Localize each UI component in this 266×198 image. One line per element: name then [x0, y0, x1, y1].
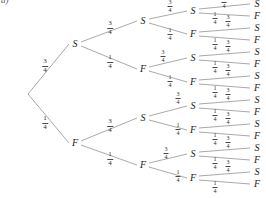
branch-probability-label: 34	[107, 118, 113, 134]
tree-leaf-node: S	[255, 47, 260, 57]
fraction-denominator: 4	[213, 45, 218, 51]
fraction-denominator: 4	[226, 22, 231, 28]
fraction-denominator: 4	[226, 119, 231, 125]
tree-edge	[199, 148, 250, 152]
tree-node: F	[72, 138, 78, 148]
branch-probability-label: 14	[107, 151, 113, 167]
tree-leaf-node: F	[254, 35, 260, 45]
fraction-numerator: 1	[107, 54, 113, 61]
tree-leaf-node: S	[255, 0, 260, 9]
fraction-numerator: 3	[164, 146, 169, 152]
tree-node: F	[190, 77, 196, 87]
tree-edge	[28, 94, 69, 143]
tree-edge	[199, 124, 250, 128]
tree-leaf-node: F	[254, 83, 260, 93]
tree-edge	[28, 44, 69, 94]
fraction-numerator: 1	[213, 37, 218, 43]
tree-edge	[199, 172, 250, 176]
tree-edge	[199, 156, 250, 160]
branch-probability-label: 34	[42, 58, 48, 74]
fraction-denominator: 4	[161, 57, 166, 63]
fraction-numerator: 3	[226, 14, 231, 20]
branch-probability-label: 14	[213, 108, 218, 122]
fraction-numerator: 1	[176, 122, 181, 128]
branch-probability-label: 14	[213, 60, 218, 74]
tree-edge	[199, 60, 250, 64]
tree-leaf-node: S	[255, 71, 260, 81]
tree-edge	[199, 36, 250, 40]
tree-node: S	[191, 149, 196, 159]
fraction-numerator: 3	[107, 118, 113, 125]
branch-probability-label: 34	[226, 63, 231, 77]
fraction-numerator: 1	[168, 27, 173, 33]
tree-node: S	[141, 16, 146, 26]
fraction-numerator: 1	[213, 108, 218, 114]
tree-edge	[149, 58, 187, 67]
fraction-numerator: 3	[168, 0, 173, 5]
fraction-numerator: 1	[176, 169, 181, 175]
fraction-denominator: 4	[107, 29, 113, 36]
fraction-denominator: 4	[226, 47, 231, 53]
tree-leaf-node: F	[254, 107, 260, 117]
tree-node: S	[141, 113, 146, 123]
fraction-numerator: 1	[42, 115, 48, 122]
fraction-denominator: 4	[226, 95, 231, 101]
fraction-denominator: 4	[222, 3, 227, 9]
fraction-denominator: 4	[164, 154, 169, 160]
tree-leaf-node: S	[255, 23, 260, 33]
branch-probability-label: 14	[42, 115, 48, 131]
tree-leaf-node: F	[254, 179, 260, 189]
fraction-numerator: 1	[213, 132, 218, 138]
tree-edge	[149, 106, 187, 116]
tree-leaf-node: S	[255, 95, 260, 105]
fraction-denominator: 4	[213, 68, 218, 74]
tree-edge	[149, 167, 187, 178]
tree-leaf-node: F	[254, 11, 260, 21]
branch-probability-label: 34	[226, 39, 231, 53]
fraction-numerator: 3	[226, 135, 231, 141]
tree-edge	[199, 28, 250, 32]
branch-probability-label: 34	[222, 0, 227, 9]
fraction-numerator: 3	[161, 49, 166, 55]
tree-edge	[199, 13, 250, 16]
fraction-denominator: 4	[213, 116, 218, 122]
tree-node: S	[191, 101, 196, 111]
fraction-denominator: 4	[168, 35, 173, 41]
branch-probability-label: 34	[226, 87, 231, 101]
fraction-denominator: 4	[213, 19, 218, 25]
fraction-numerator: 3	[226, 63, 231, 69]
tree-edge	[199, 84, 250, 88]
fraction-numerator: 3	[42, 58, 48, 65]
branch-probability-label: 34	[168, 0, 173, 13]
fraction-numerator: 3	[176, 91, 181, 97]
branch-probability-label: 14	[213, 85, 218, 99]
fraction-denominator: 4	[42, 124, 48, 131]
tree-edge	[199, 180, 250, 184]
branch-probability-label: 14	[176, 122, 181, 136]
tree-edge	[199, 100, 250, 104]
branch-probability-label: 34	[226, 135, 231, 149]
branch-probability-label: 14	[176, 169, 181, 183]
branch-probability-label: 34	[226, 111, 231, 125]
fraction-denominator: 4	[176, 130, 181, 136]
fraction-denominator: 4	[176, 177, 181, 183]
tree-node: F	[140, 64, 146, 74]
fraction-denominator: 4	[107, 127, 113, 134]
branch-probability-label: 34	[176, 91, 181, 105]
branch-probability-label: 14	[213, 11, 218, 25]
tree-leaf-node: F	[254, 59, 260, 69]
fraction-numerator: 1	[213, 156, 218, 162]
tree-node: S	[191, 6, 196, 16]
fraction-numerator: 1	[213, 180, 218, 186]
tree-edge	[149, 120, 187, 130]
tree-leaf-node: S	[255, 167, 260, 177]
branch-probability-label: 14	[107, 54, 113, 70]
tree-node: F	[140, 160, 146, 170]
fraction-denominator: 4	[42, 67, 48, 74]
tree-diagram-figure: a) SFSFSFSFSFSFSFSFSFSFSFSFSFSFSF 341434…	[0, 0, 266, 198]
fraction-denominator: 4	[176, 99, 181, 105]
branch-probability-label: 14	[168, 27, 173, 41]
branch-probability-label: 34	[161, 49, 166, 63]
tree-node: S	[73, 39, 78, 49]
fraction-denominator: 4	[226, 167, 231, 173]
